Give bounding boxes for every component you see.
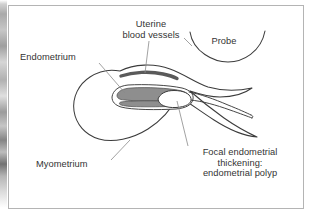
- label-probe: Probe: [196, 36, 252, 47]
- label-uterine-blood-vessels: Uterine blood vessels: [107, 19, 195, 40]
- label-myometrium: Myometrium: [36, 159, 112, 170]
- label-endometrium: Endometrium: [20, 52, 100, 63]
- endometrial-polyp: [158, 91, 191, 108]
- leader-line-myometrium: [111, 140, 130, 160]
- label-focal-endometrial-polyp: Focal endometrial thickening: endometria…: [180, 147, 300, 179]
- figure-root: Uterine blood vessels Probe Endometrium …: [0, 0, 314, 219]
